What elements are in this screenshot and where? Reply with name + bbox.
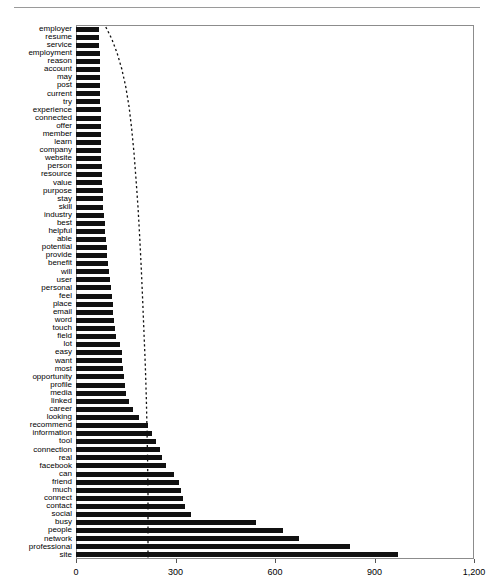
category-label-website: website xyxy=(45,154,72,162)
category-label-employment: employment xyxy=(28,49,72,57)
category-label-value: value xyxy=(53,179,72,187)
category-label-can: can xyxy=(59,470,72,478)
category-label-purpose: purpose xyxy=(43,187,72,195)
category-label-career: career xyxy=(49,405,72,413)
category-label-offer: offer xyxy=(56,122,72,130)
cumulative-reference-curve xyxy=(76,25,474,559)
category-label-information: information xyxy=(32,429,72,437)
x-tick-0 xyxy=(76,559,77,563)
category-label-provide: provide xyxy=(46,251,72,259)
category-label-touch: touch xyxy=(52,324,72,332)
category-label-social: social xyxy=(52,510,72,518)
category-label-word: word xyxy=(55,316,72,324)
category-label-resume: resume xyxy=(45,33,72,41)
category-label-network: network xyxy=(44,535,72,543)
x-tick-1200 xyxy=(474,559,475,563)
category-label-recommend: recommend xyxy=(30,421,72,429)
category-label-busy: busy xyxy=(55,518,72,526)
x-tick-label-600: 600 xyxy=(245,568,305,577)
category-label-current: current xyxy=(47,90,72,98)
category-label-lot: lot xyxy=(64,340,72,348)
category-label-facebook: facebook xyxy=(40,462,72,470)
x-tick-label-1200: 1,200 xyxy=(444,568,494,577)
category-label-reason: reason xyxy=(48,57,72,65)
category-label-want: want xyxy=(55,357,72,365)
category-label-user: user xyxy=(56,276,72,284)
category-label-try: try xyxy=(63,98,72,106)
category-label-able: able xyxy=(57,235,72,243)
category-label-site: site xyxy=(60,551,72,559)
category-label-easy: easy xyxy=(55,348,72,356)
category-label-professional: professional xyxy=(29,543,72,551)
chart-page: employerresumeserviceemploymentreasonacc… xyxy=(0,0,494,587)
category-label-email: email xyxy=(53,308,72,316)
x-tick-label-900: 900 xyxy=(345,568,405,577)
category-label-service: service xyxy=(47,41,72,49)
category-label-account: account xyxy=(44,65,72,73)
x-tick-900 xyxy=(375,559,376,563)
category-label-may: may xyxy=(57,73,72,81)
category-label-post: post xyxy=(57,81,72,89)
category-label-connected: connected xyxy=(35,114,72,122)
category-label-stay: stay xyxy=(57,195,72,203)
category-label-place: place xyxy=(53,300,72,308)
category-label-will: will xyxy=(61,268,72,276)
category-label-tool: tool xyxy=(59,437,72,445)
category-label-best: best xyxy=(57,219,72,227)
category-label-personal: personal xyxy=(41,284,72,292)
category-label-employer: employer xyxy=(39,25,72,33)
category-label-real: real xyxy=(59,454,72,462)
top-divider-rule xyxy=(14,7,480,8)
category-label-friend: friend xyxy=(52,478,72,486)
category-label-industry: industry xyxy=(44,211,72,219)
category-label-skill: skill xyxy=(59,203,72,211)
x-tick-label-300: 300 xyxy=(146,568,206,577)
category-label-opportunity: opportunity xyxy=(32,373,72,381)
category-label-connect: connect xyxy=(44,494,72,502)
category-label-member: member xyxy=(43,130,72,138)
x-tick-300 xyxy=(176,559,177,563)
category-label-field: field xyxy=(57,332,72,340)
category-label-person: person xyxy=(48,162,72,170)
category-label-profile: profile xyxy=(50,381,72,389)
category-label-most: most xyxy=(55,365,72,373)
category-label-much: much xyxy=(52,486,72,494)
category-label-people: people xyxy=(48,526,72,534)
cumulative-curve-path xyxy=(106,27,148,558)
category-label-contact: contact xyxy=(46,502,72,510)
x-tick-label-0: 0 xyxy=(46,568,106,577)
category-label-feel: feel xyxy=(59,292,72,300)
category-label-company: company xyxy=(40,146,72,154)
category-label-connection: connection xyxy=(33,446,72,454)
category-label-learn: learn xyxy=(54,138,72,146)
category-label-benefit: benefit xyxy=(48,259,72,267)
x-tick-600 xyxy=(275,559,276,563)
category-label-resource: resource xyxy=(41,170,72,178)
category-label-potential: potential xyxy=(42,243,72,251)
category-label-experience: experience xyxy=(33,106,72,114)
category-label-media: media xyxy=(50,389,72,397)
category-label-linked: linked xyxy=(51,397,72,405)
category-label-helpful: helpful xyxy=(48,227,72,235)
category-label-looking: looking xyxy=(47,413,72,421)
